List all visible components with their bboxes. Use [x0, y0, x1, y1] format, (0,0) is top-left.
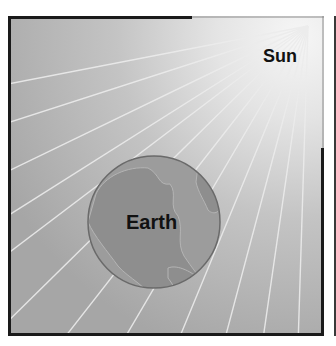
sun-label: Sun [263, 46, 297, 67]
sun-earth-diagram: Sun Earth [8, 16, 324, 336]
earth-label: Earth [126, 211, 177, 234]
